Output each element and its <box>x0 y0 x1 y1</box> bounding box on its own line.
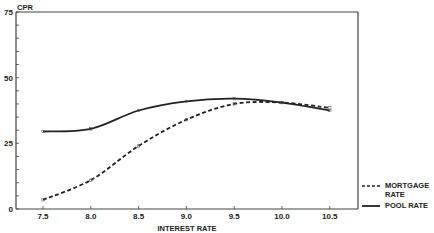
y-axis-ticks: 0255075 <box>4 8 19 214</box>
x-tick-label: 10.0 <box>274 212 290 221</box>
legend-label-mortgage-rate: MORTGAGE <box>385 181 429 190</box>
x-tick-label: 10.5 <box>322 212 338 221</box>
pool-rate-line <box>43 99 330 132</box>
y-tick-label: 0 <box>9 205 14 214</box>
x-tick-label: 9.0 <box>181 212 193 221</box>
y-tick-label: 50 <box>4 74 13 83</box>
cpr-line-chart: 0255075 7.58.08.59.09.510.010.5 CPR INTE… <box>0 0 434 233</box>
legend: MORTGAGERATEPOOL RATE <box>362 181 429 210</box>
x-tick-label: 7.5 <box>37 212 49 221</box>
legend-label-mortgage-rate-line2: RATE <box>385 190 405 199</box>
plot-frame <box>16 12 358 209</box>
x-tick-label: 8.5 <box>133 212 145 221</box>
mortgage-rate-line <box>43 102 330 200</box>
y-tick-label: 25 <box>4 139 13 148</box>
legend-label-pool-rate: POOL RATE <box>385 201 428 210</box>
data-series <box>42 97 331 201</box>
x-axis-title: INTEREST RATE <box>157 224 216 233</box>
y-axis-title: CPR <box>17 3 33 12</box>
x-axis-ticks: 7.58.08.59.09.510.010.5 <box>37 206 338 221</box>
data-point-marker <box>329 107 331 109</box>
y-tick-label: 75 <box>4 8 13 17</box>
x-tick-label: 8.0 <box>85 212 97 221</box>
x-tick-label: 9.5 <box>229 212 241 221</box>
